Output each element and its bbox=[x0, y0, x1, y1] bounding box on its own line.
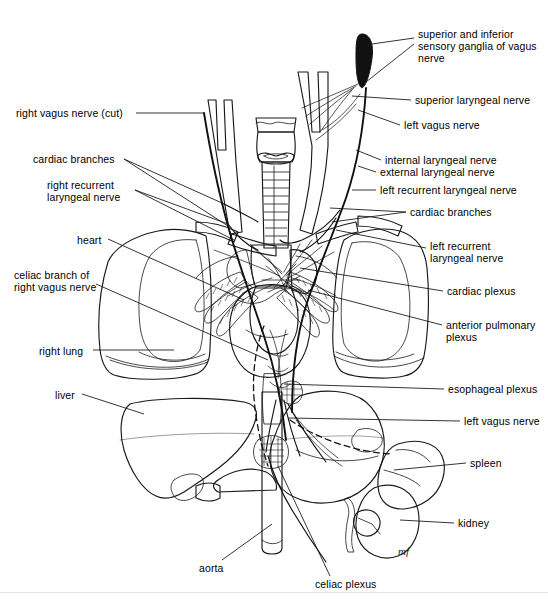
label-left-recurrent-laryngeal-nerve: left recurrent laryngeal nerve bbox=[430, 240, 503, 264]
label-esophageal-plexus: esophageal plexus bbox=[448, 383, 537, 395]
label-left-recurrent-laryngeal-nerve-top: left recurrent laryngeal nerve bbox=[380, 184, 517, 196]
label-cardiac-branches-left: cardiac branches bbox=[33, 153, 115, 165]
label-cardiac-plexus: cardiac plexus bbox=[447, 285, 516, 297]
label-celiac-plexus-bottom: celiac plexus bbox=[315, 578, 376, 590]
label-aorta: aorta bbox=[199, 562, 223, 574]
label-celiac-branch-right-vagus: celiac branch of right vagus nerve bbox=[14, 269, 96, 293]
anatomy-illustration: .ol{fill:none;stroke:#1a1a1a;stroke-widt… bbox=[0, 0, 548, 603]
label-right-lung: right lung bbox=[39, 345, 83, 357]
larynx-trachea bbox=[256, 118, 296, 248]
right-lung-shape bbox=[99, 229, 211, 379]
anatomy-figure: .ol{fill:none;stroke:#1a1a1a;stroke-widt… bbox=[0, 0, 548, 603]
label-heart: heart bbox=[77, 234, 101, 246]
footer-divider bbox=[0, 592, 548, 593]
label-liver: liver bbox=[55, 389, 75, 401]
left-lung-shape bbox=[333, 229, 429, 378]
vascular-trunks bbox=[196, 72, 402, 256]
label-internal-laryngeal-nerve: internal laryngeal nerve bbox=[385, 154, 497, 166]
label-anterior-pulmonary-plexus: anterior pulmonary plexus bbox=[446, 319, 535, 343]
label-external-laryngeal-nerve: external laryngeal nerve bbox=[380, 166, 495, 178]
label-left-vagus-nerve-top: left vagus nerve bbox=[404, 119, 480, 131]
celiac-plexus-shape bbox=[254, 436, 289, 469]
label-kidney: kidney bbox=[458, 517, 489, 529]
vagus-nerve-trunks bbox=[204, 34, 392, 562]
sensory-ganglia-shape bbox=[356, 34, 373, 88]
label-spleen: spleen bbox=[470, 457, 502, 469]
artist-signature: mf bbox=[398, 545, 409, 557]
label-sensory-ganglia-vagus: superior and inferior sensory ganglia of… bbox=[418, 28, 537, 65]
label-cardiac-branches-right: cardiac branches bbox=[410, 206, 492, 218]
heart-shape bbox=[230, 285, 311, 378]
liver-shape bbox=[120, 398, 257, 500]
label-right-vagus-nerve-cut: right vagus nerve (cut) bbox=[16, 107, 123, 119]
label-superior-laryngeal-nerve: superior laryngeal nerve bbox=[415, 94, 530, 106]
label-right-recurrent-laryngeal-nerve: right recurrent laryngeal nerve bbox=[47, 179, 120, 203]
label-left-vagus-nerve-lower: left vagus nerve bbox=[464, 415, 540, 427]
right-bronchial-tree bbox=[195, 256, 258, 336]
spleen-shape bbox=[378, 441, 444, 509]
